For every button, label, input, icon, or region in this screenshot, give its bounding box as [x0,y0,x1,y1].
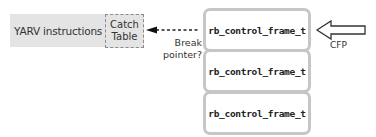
cfp-hollow-arrow-icon [317,21,365,39]
arrows-layer [0,0,376,137]
break-pointer-label: Break pointer? [150,37,202,61]
break-pointer-arrow-icon [146,27,200,34]
cfp-label: CFP [330,40,347,50]
